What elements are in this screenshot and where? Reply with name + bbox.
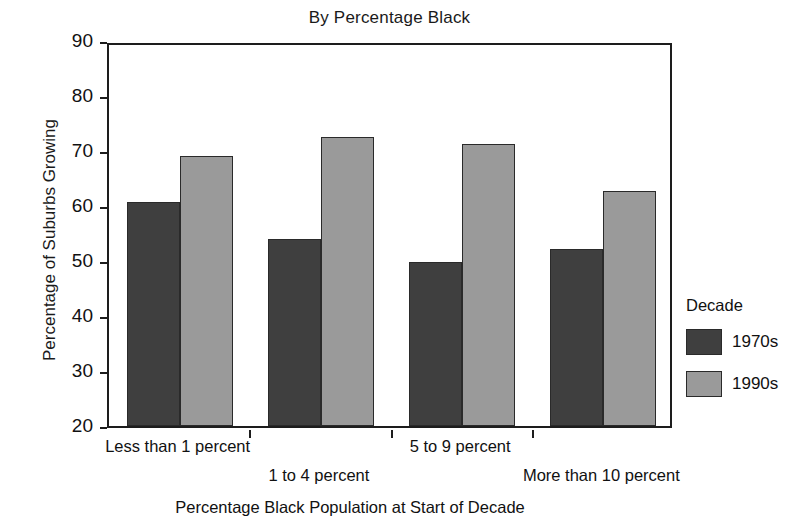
y-tick-mark xyxy=(100,42,107,44)
legend-entries: 1970s1990s xyxy=(686,329,798,397)
x-axis-title: Percentage Black Population at Start of … xyxy=(0,498,700,517)
y-tick-label: 90 xyxy=(33,30,93,52)
x-category-label-0: Less than 1 percent xyxy=(68,437,288,456)
legend: Decade 1970s1990s xyxy=(686,296,798,413)
bar-1990s-0 xyxy=(180,156,233,426)
y-tick-mark xyxy=(100,372,107,374)
bar-1990s-2 xyxy=(462,144,515,426)
legend-item-1970s: 1970s xyxy=(686,329,798,355)
bar-1990s-1 xyxy=(321,137,374,426)
y-tick-mark xyxy=(100,317,107,319)
y-tick-label: 50 xyxy=(33,250,93,272)
legend-item-1990s: 1990s xyxy=(686,371,798,397)
legend-swatch-1970s xyxy=(686,329,722,355)
y-tick-label: 80 xyxy=(33,85,93,107)
y-tick-label: 70 xyxy=(33,140,93,162)
bar-1970s-2 xyxy=(409,262,462,426)
bar-1990s-3 xyxy=(603,191,656,426)
x-category-label-3: More than 10 percent xyxy=(491,466,711,485)
y-tick-mark xyxy=(100,262,107,264)
legend-label-1990s: 1990s xyxy=(732,374,778,394)
plot-area xyxy=(107,43,672,428)
y-tick-label: 20 xyxy=(33,415,93,437)
y-tick-label: 30 xyxy=(33,360,93,382)
legend-swatch-1990s xyxy=(686,371,722,397)
y-tick-label: 60 xyxy=(33,195,93,217)
x-category-label-2: 5 to 9 percent xyxy=(350,437,570,456)
y-tick-mark xyxy=(100,152,107,154)
y-tick-label: 40 xyxy=(33,305,93,327)
y-tick-mark xyxy=(100,427,107,429)
chart-figure: By Percentage Black Percentage of Suburb… xyxy=(0,0,798,526)
y-tick-mark xyxy=(100,207,107,209)
chart-title: By Percentage Black xyxy=(107,8,672,28)
bar-1970s-3 xyxy=(550,249,603,426)
legend-label-1970s: 1970s xyxy=(732,332,778,352)
y-tick-mark xyxy=(100,97,107,99)
bar-1970s-1 xyxy=(268,239,321,426)
legend-title: Decade xyxy=(686,296,798,315)
bar-1970s-0 xyxy=(127,202,180,426)
x-category-label-1: 1 to 4 percent xyxy=(209,466,429,485)
